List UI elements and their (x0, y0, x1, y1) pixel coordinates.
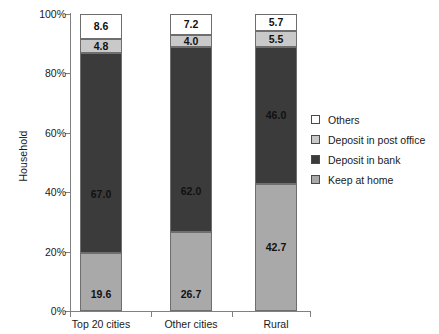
legend: OthersDeposit in post officeDeposit in b… (311, 110, 425, 190)
bar-segment[interactable]: 62.0 (170, 47, 212, 231)
bar-segment-value: 4.0 (184, 36, 199, 47)
bar-segment[interactable]: 42.7 (255, 184, 297, 311)
legend-item[interactable]: Others (311, 110, 425, 129)
bar-stack[interactable]: 26.762.04.07.2 (170, 14, 212, 312)
legend-label: Deposit in post office (328, 134, 425, 146)
x-tick-mark (232, 311, 233, 317)
stacked-bar-chart: Household 0%20%40%60%80%100% Top 20 citi… (0, 0, 439, 334)
bar-stack[interactable]: 19.667.04.88.6 (80, 14, 122, 312)
bar-segment-value: 67.0 (91, 189, 111, 200)
bar-segment[interactable]: 5.7 (255, 14, 297, 31)
bar-segment[interactable]: 19.6 (80, 253, 122, 311)
bar-segment-value: 7.2 (184, 19, 199, 30)
bar-segment-value: 8.6 (94, 21, 109, 32)
legend-label: Keep at home (328, 174, 393, 186)
bar-stack[interactable]: 42.746.05.55.7 (255, 14, 297, 312)
legend-swatch-icon (311, 155, 320, 164)
bar-segment-value: 26.7 (181, 289, 201, 300)
x-category-label: Top 20 cities (51, 318, 151, 330)
y-tick-label: 60% (28, 127, 66, 139)
bar-segment[interactable]: 67.0 (80, 53, 122, 252)
bar-segment[interactable]: 5.5 (255, 31, 297, 47)
y-axis-line (70, 13, 71, 312)
legend-item[interactable]: Keep at home (311, 170, 425, 189)
legend-swatch-icon (311, 115, 320, 124)
y-tick-label: 80% (28, 67, 66, 79)
bar-segment[interactable]: 46.0 (255, 47, 297, 184)
bar-segment[interactable]: 7.2 (170, 14, 212, 35)
bar-segment-value: 62.0 (181, 186, 201, 197)
bar-segment[interactable]: 4.0 (170, 35, 212, 47)
x-tick-mark (310, 311, 311, 317)
bar-segment-value: 19.6 (91, 289, 111, 300)
legend-label: Others (328, 114, 360, 126)
x-tick-mark (70, 311, 71, 317)
y-tick-label: 0% (28, 305, 66, 317)
legend-item[interactable]: Deposit in bank (311, 150, 425, 169)
bar-segment-value: 4.8 (94, 41, 109, 52)
x-axis-line (70, 311, 311, 312)
y-tick-label: 100% (28, 8, 66, 20)
legend-swatch-icon (311, 175, 320, 184)
y-tick-label: 20% (28, 246, 66, 258)
bar-segment[interactable]: 8.6 (80, 14, 122, 40)
x-tick-mark (151, 311, 152, 317)
bar-segment-value: 42.7 (266, 242, 286, 253)
legend-swatch-icon (311, 135, 320, 144)
bar-segment-value: 5.7 (269, 17, 284, 28)
y-tick-label: 40% (28, 186, 66, 198)
bar-segment-value: 46.0 (266, 110, 286, 121)
x-category-label: Rural (226, 318, 326, 330)
legend-item[interactable]: Deposit in post office (311, 130, 425, 149)
legend-label: Deposit in bank (328, 154, 400, 166)
bar-segment[interactable]: 26.7 (170, 232, 212, 311)
bar-segment[interactable]: 4.8 (80, 39, 122, 53)
bar-segment-value: 5.5 (269, 34, 284, 45)
